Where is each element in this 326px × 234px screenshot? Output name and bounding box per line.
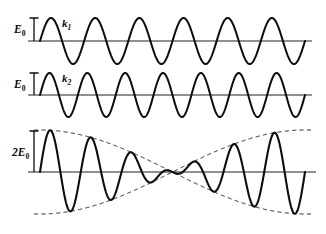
envelope-upper-curve: [34, 130, 311, 172]
amplitude-tick-wave-1: [30, 18, 39, 41]
wave-beats-figure: E0 k1 E0 k2 2E0: [0, 0, 326, 234]
waveform-superposition: [40, 130, 305, 213]
envelope-lower-curve: [34, 172, 311, 214]
panel-beat-wave: [28, 130, 316, 214]
wave-label-k1: k1: [62, 17, 72, 32]
figure-canvas: E0 k1 E0 k2 2E0: [0, 0, 326, 234]
amplitude-tick-beat-wave: [30, 131, 39, 172]
amplitude-label-wave-1: E0: [13, 23, 26, 38]
amplitude-label-wave-2: E0: [13, 78, 26, 93]
amplitude-label-beat-wave: 2E0: [11, 146, 29, 161]
amplitude-tick-wave-2: [30, 73, 39, 95]
wave-label-k2: k2: [62, 72, 72, 87]
